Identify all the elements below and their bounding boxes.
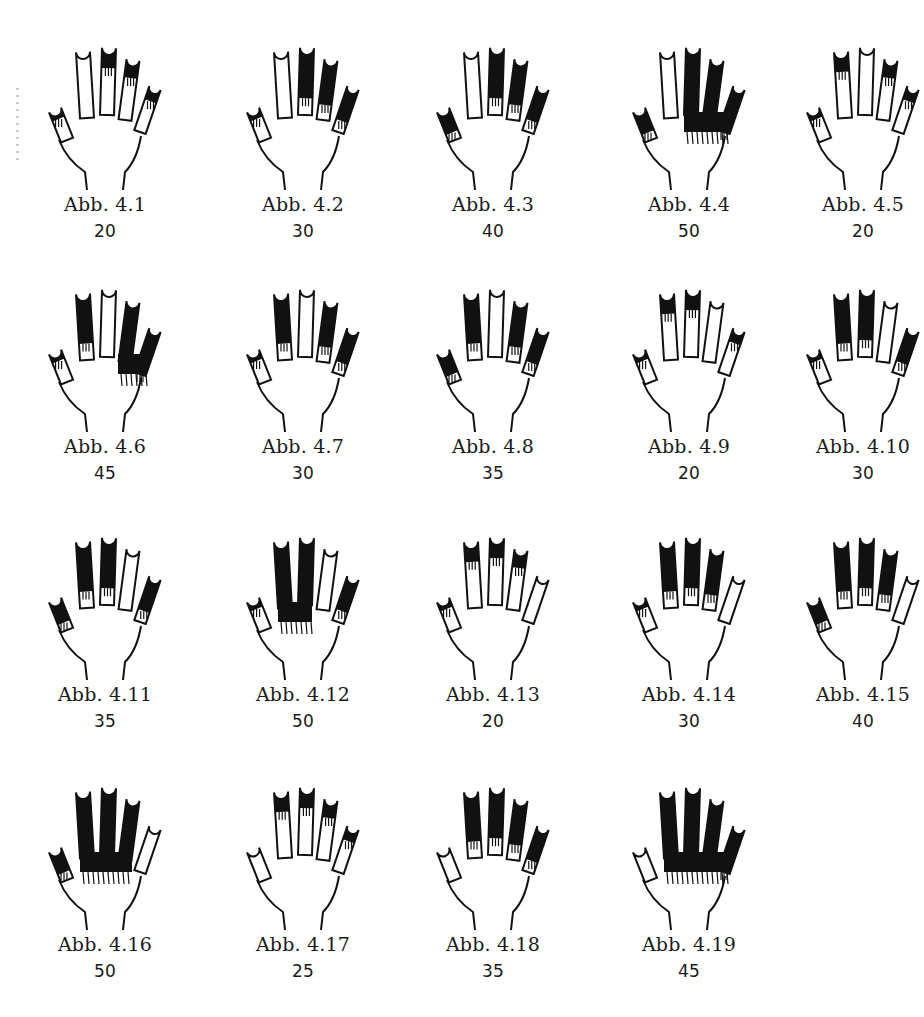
hand-icon: [243, 282, 363, 432]
figure-label: Abb. 4.18: [408, 933, 578, 955]
figure-value: 20: [604, 463, 774, 483]
figure-value: 30: [218, 463, 388, 483]
figure-label: Abb. 4.16: [20, 933, 190, 955]
hand-figure-4-15: Abb. 4.15 40: [778, 530, 924, 770]
hand-icon: [243, 530, 363, 680]
figure-value: 40: [778, 711, 924, 731]
figure-label: Abb. 4.14: [604, 683, 774, 705]
hand-icon: [433, 40, 553, 190]
hand-icon: [629, 282, 749, 432]
hand-figure-4-5: Abb. 4.5 20: [778, 40, 924, 280]
hand-figure-4-7: Abb. 4.7 30: [218, 282, 388, 522]
hand-figure-4-4: Abb. 4.4 50: [604, 40, 774, 280]
hand-icon: [45, 282, 165, 432]
hand-figure-4-8: Abb. 4.8 35: [408, 282, 578, 522]
figure-label: Abb. 4.13: [408, 683, 578, 705]
hand-icon: [45, 780, 165, 930]
hand-icon: [803, 282, 923, 432]
figure-label: Abb. 4.8: [408, 435, 578, 457]
hand-figure-4-3: Abb. 4.3 40: [408, 40, 578, 280]
hand-icon: [629, 530, 749, 680]
hand-figure-4-19: Abb. 4.19 45: [604, 780, 774, 1017]
figure-label: Abb. 4.15: [778, 683, 924, 705]
hand-icon: [45, 40, 165, 190]
figure-label: Abb. 4.12: [218, 683, 388, 705]
hand-icon: [629, 40, 749, 190]
figure-value: 35: [408, 463, 578, 483]
hand-icon: [433, 282, 553, 432]
figure-label: Abb. 4.5: [778, 193, 924, 215]
hand-figure-4-12: Abb. 4.12 50: [218, 530, 388, 770]
figure-label: Abb. 4.3: [408, 193, 578, 215]
hand-figure-4-16: Abb. 4.16 50: [20, 780, 190, 1017]
hand-figure-4-6: Abb. 4.6 45: [20, 282, 190, 522]
figure-value: 35: [408, 961, 578, 981]
figure-value: 50: [218, 711, 388, 731]
figure-value: 20: [20, 221, 190, 241]
figure-value: 50: [604, 221, 774, 241]
figure-label: Abb. 4.1: [20, 193, 190, 215]
hand-icon: [433, 530, 553, 680]
figure-label: Abb. 4.17: [218, 933, 388, 955]
hand-figure-4-10: Abb. 4.10 30: [778, 282, 924, 522]
figure-value: 40: [408, 221, 578, 241]
figure-value: 35: [20, 711, 190, 731]
hand-figure-4-1: Abb. 4.1 20: [20, 40, 190, 280]
hand-icon: [45, 530, 165, 680]
figure-value: 30: [218, 221, 388, 241]
figure-value: 45: [604, 961, 774, 981]
hand-figure-4-11: Abb. 4.11 35: [20, 530, 190, 770]
hand-figure-4-9: Abb. 4.9 20: [604, 282, 774, 522]
hand-figure-4-14: Abb. 4.14 30: [604, 530, 774, 770]
figure-value: 20: [778, 221, 924, 241]
figure-value: 30: [778, 463, 924, 483]
figure-label: Abb. 4.2: [218, 193, 388, 215]
figure-value: 25: [218, 961, 388, 981]
hand-icon: [433, 780, 553, 930]
figure-value: 20: [408, 711, 578, 731]
figure-label: Abb. 4.11: [20, 683, 190, 705]
hand-figure-4-2: Abb. 4.2 30: [218, 40, 388, 280]
figure-label: Abb. 4.4: [604, 193, 774, 215]
figure-label: Abb. 4.19: [604, 933, 774, 955]
hand-figure-4-13: Abb. 4.13 20: [408, 530, 578, 770]
hand-icon: [243, 40, 363, 190]
figure-value: 30: [604, 711, 774, 731]
hand-figure-4-17: Abb. 4.17 25: [218, 780, 388, 1017]
figure-label: Abb. 4.9: [604, 435, 774, 457]
figure-label: Abb. 4.7: [218, 435, 388, 457]
figure-value: 50: [20, 961, 190, 981]
hand-icon: [243, 780, 363, 930]
figure-label: Abb. 4.6: [20, 435, 190, 457]
hand-icon: [803, 530, 923, 680]
hand-icon: [803, 40, 923, 190]
hand-icon: [629, 780, 749, 930]
hand-figure-4-18: Abb. 4.18 35: [408, 780, 578, 1017]
figure-label: Abb. 4.10: [778, 435, 924, 457]
figure-value: 45: [20, 463, 190, 483]
